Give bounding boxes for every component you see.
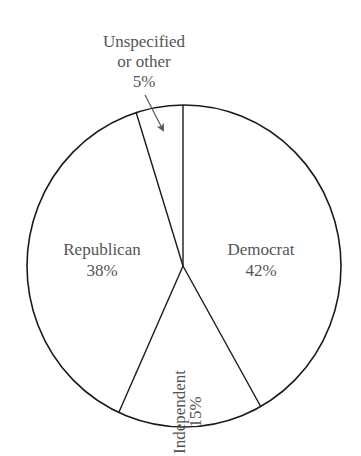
label-independent-pct: 15% bbox=[186, 396, 205, 427]
label-democrat-name: Democrat bbox=[227, 240, 294, 259]
label-democrat-pct: 42% bbox=[245, 261, 276, 280]
label-republican-name: Republican bbox=[63, 240, 141, 259]
label-unspecified-pct: 5% bbox=[133, 72, 156, 91]
label-unspecified-line2: or other bbox=[117, 52, 171, 71]
label-republican-pct: 38% bbox=[86, 261, 117, 280]
label-unspecified-line1: Unspecified bbox=[103, 32, 186, 51]
pie-chart: Unspecified or other 5% Republican 38% D… bbox=[0, 0, 361, 456]
